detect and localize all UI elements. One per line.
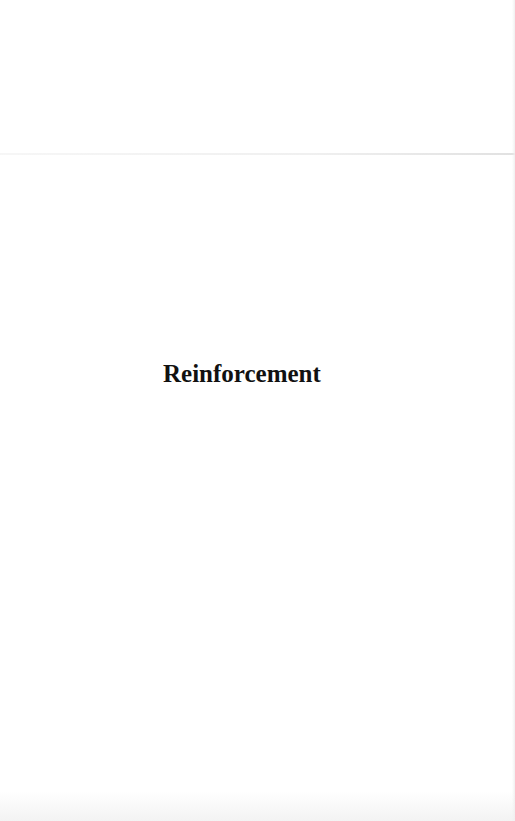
scan-bleed-line (0, 153, 515, 155)
document-page: Reinforcement (0, 0, 515, 821)
section-title: Reinforcement (163, 359, 321, 389)
scan-bottom-shade (0, 791, 515, 821)
